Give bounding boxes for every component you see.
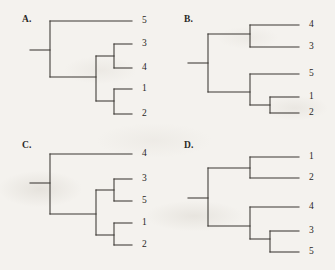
panel-d-tree: 1 2 4 3 5 bbox=[167, 135, 335, 270]
leaf-label-b-1: 3 bbox=[309, 41, 314, 51]
leaf-label-b-4: 2 bbox=[309, 107, 314, 117]
leaf-label-d-0: 1 bbox=[309, 151, 314, 161]
panel-c-tree: 4 3 5 1 2 bbox=[0, 135, 167, 270]
leaf-label-d-4: 5 bbox=[309, 246, 314, 256]
panel-c: C. 4 3 5 1 2 bbox=[0, 135, 167, 270]
leaf-label-b-2: 5 bbox=[309, 68, 314, 78]
leaf-label-d-3: 3 bbox=[309, 225, 314, 235]
leaf-label-b-3: 1 bbox=[309, 91, 314, 101]
leaf-label-a-3: 1 bbox=[142, 83, 147, 93]
leaf-label-c-0: 4 bbox=[142, 148, 147, 158]
leaf-label-c-1: 3 bbox=[142, 173, 147, 183]
leaf-label-c-2: 5 bbox=[142, 195, 147, 205]
panel-b: B. 4 3 5 1 2 bbox=[167, 0, 335, 135]
leaf-label-a-0: 5 bbox=[142, 15, 147, 25]
leaf-label-a-1: 3 bbox=[142, 38, 147, 48]
leaf-label-b-0: 4 bbox=[309, 19, 314, 29]
leaf-label-a-2: 4 bbox=[142, 62, 147, 72]
panel-a: A. 5 3 4 1 2 bbox=[0, 0, 167, 135]
leaf-label-a-4: 2 bbox=[142, 108, 147, 118]
leaf-label-d-2: 4 bbox=[309, 201, 314, 211]
cladogram-figure: A. 5 3 4 1 2 bbox=[0, 0, 335, 270]
leaf-label-c-4: 2 bbox=[142, 239, 147, 249]
panel-d: D. 1 2 4 3 5 bbox=[167, 135, 335, 270]
leaf-label-c-3: 1 bbox=[142, 217, 147, 227]
panel-b-tree: 4 3 5 1 2 bbox=[167, 0, 335, 135]
panel-a-tree: 5 3 4 1 2 bbox=[0, 0, 167, 135]
leaf-label-d-1: 2 bbox=[309, 172, 314, 182]
